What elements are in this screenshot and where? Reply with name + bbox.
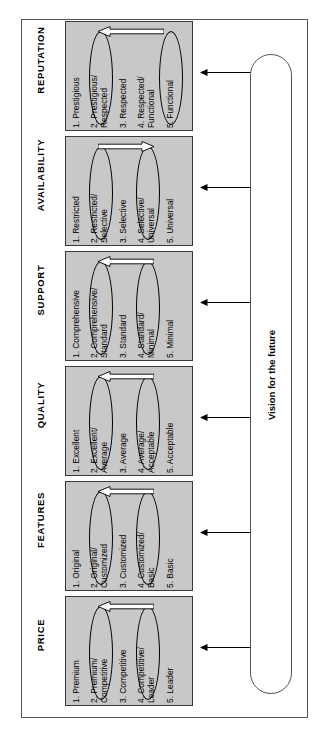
vision-connector-arrow-icon	[200, 298, 253, 307]
scale-item: 5. Universal	[158, 139, 184, 243]
scale-item: 2. Restricted/ Selective	[87, 139, 113, 243]
scale-item: 5. Basic	[158, 484, 184, 588]
scale-panel-availability[interactable]: 1. Restricted 2. Restricted/ Selective 3…	[65, 136, 193, 246]
scale-item: 5. Minimal	[158, 254, 184, 358]
scale-item: 4. Standard/ Minimal	[134, 254, 160, 358]
scale-item: 4. Competitive/ Leader	[134, 599, 160, 703]
band-title-reputation: REPUTATION	[34, 14, 48, 106]
scale-item: 4. Selective/ Universal	[134, 139, 160, 243]
scale-panel-quality[interactable]: 1. Excellent 2. Excellent/ Average 3. Av…	[65, 366, 193, 476]
transition-arrow-left-icon	[98, 256, 154, 267]
vision-label: Vision for the future	[265, 275, 279, 475]
vision-connector-arrow-icon	[200, 643, 253, 652]
scale-panel-price[interactable]: 1. Premium 2. Premium/ Competitive 3. Co…	[65, 596, 193, 706]
transition-arrow-left-icon	[98, 26, 164, 37]
vision-connector-arrow-icon	[200, 528, 253, 537]
vision-for-the-future-box[interactable]: Vision for the future	[250, 54, 292, 694]
band-title-quality: QUALITY	[34, 359, 48, 451]
scale-item: 4. Respected/ Functional	[134, 24, 160, 128]
scale-item: 2. Comprehensive/ Standard	[87, 254, 113, 358]
scale-item: 2. Prestigious/ Respected	[87, 24, 113, 128]
scale-panel-reputation[interactable]: 1. Prestigious 2. Prestigious/ Respected…	[65, 21, 193, 131]
transition-arrow-left-icon	[98, 486, 154, 497]
scale-panel-features[interactable]: 1. Original 2. Original/ Customized 3. C…	[65, 481, 193, 591]
scale-panel-support[interactable]: 1. Comprehensive 2. Comprehensive/ Stand…	[65, 251, 193, 361]
vision-connector-arrow-icon	[200, 413, 253, 422]
scale-item: 5. Functional	[158, 24, 184, 128]
band-title-price: PRICE	[34, 589, 48, 681]
band-title-support: SUPPORT	[34, 244, 48, 336]
transition-arrow-right-icon	[98, 141, 154, 152]
scale-item: 4. Average/ Acceptable	[134, 369, 160, 473]
vision-connector-arrow-icon	[200, 183, 253, 192]
scale-item: 2. Excellent/ Average	[87, 369, 113, 473]
band-title-availability: AVAILABILITY	[34, 129, 48, 221]
transition-arrow-left-icon	[98, 371, 154, 382]
scale-item: 4. Customized/ Basic	[134, 484, 160, 588]
scale-item: 2. Premium/ Competitive	[87, 599, 113, 703]
scale-item: 2. Original/ Customized	[87, 484, 113, 588]
scale-item: 5. Leader	[158, 599, 184, 703]
scale-item: 5. Acceptable	[158, 369, 184, 473]
diagram-outer-frame: REPUTATION 1. Prestigious 2. Prestigious…	[21, 19, 308, 718]
vision-connector-arrow-icon	[200, 68, 253, 77]
band-title-features: FEATURES	[34, 474, 48, 566]
transition-arrow-left-icon	[98, 601, 154, 612]
